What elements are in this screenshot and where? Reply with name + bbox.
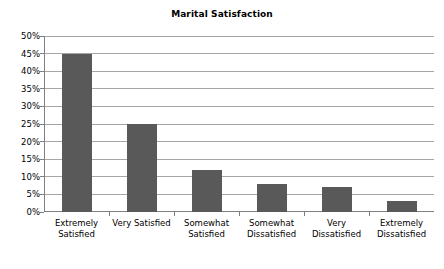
y-axis-tick-label: 50%	[0, 32, 40, 41]
x-axis-category-line: Very Satisfied	[109, 218, 174, 229]
bar-chart: Marital Satisfaction 0%5%10%15%20%25%30%…	[0, 0, 444, 269]
x-axis-category-line: Dissatisfied	[304, 229, 369, 240]
x-axis-tick-mark	[174, 212, 175, 216]
x-axis-category-label: ExtremelyDissatisfied	[369, 218, 434, 240]
x-axis-category-label: VeryDissatisfied	[304, 218, 369, 240]
x-axis-category-line: Dissatisfied	[239, 229, 304, 240]
x-axis-category-line: Somewhat	[239, 218, 304, 229]
y-axis-tick-label: 0%	[0, 208, 40, 217]
x-axis-category-line: Satisfied	[44, 229, 109, 240]
x-axis-tick-mark	[369, 212, 370, 216]
x-axis-category-line: Somewhat	[174, 218, 239, 229]
x-axis-category-line: Extremely	[44, 218, 109, 229]
x-axis-category-line: Very	[304, 218, 369, 229]
x-axis-category-label: SomewhatSatisfied	[174, 218, 239, 240]
y-axis-tick-label: 20%	[0, 137, 40, 146]
y-axis-tick-label: 35%	[0, 85, 40, 94]
x-axis-category-label: Very Satisfied	[109, 218, 174, 229]
plot-area	[44, 36, 434, 212]
x-axis-category-label: SomewhatDissatisfied	[239, 218, 304, 240]
x-axis-tick-marks	[44, 212, 434, 216]
gridline	[45, 176, 434, 177]
x-axis-category-line: Dissatisfied	[369, 229, 434, 240]
x-axis-tick-mark	[239, 212, 240, 216]
x-axis-category-line: Satisfied	[174, 229, 239, 240]
gridline	[45, 71, 434, 72]
gridline	[45, 53, 434, 54]
y-axis-tick-labels: 0%5%10%15%20%25%30%35%40%45%50%	[0, 36, 40, 212]
x-axis-tick-mark	[304, 212, 305, 216]
gridline	[45, 124, 434, 125]
y-axis-tick-label: 25%	[0, 120, 40, 129]
gridline	[45, 88, 434, 89]
y-axis-tick-label: 45%	[0, 49, 40, 58]
x-axis-category-line: Extremely	[369, 218, 434, 229]
gridline	[45, 141, 434, 142]
x-axis-tick-mark	[109, 212, 110, 216]
gridline	[45, 36, 434, 37]
y-axis-tick-label: 10%	[0, 173, 40, 182]
y-axis-tick-label: 5%	[0, 190, 40, 199]
x-axis-category-labels: ExtremelySatisfiedVery SatisfiedSomewhat…	[44, 218, 434, 262]
gridline	[45, 159, 434, 160]
x-axis-category-label: ExtremelySatisfied	[44, 218, 109, 240]
chart-title: Marital Satisfaction	[0, 9, 444, 19]
y-axis-tick-label: 15%	[0, 155, 40, 164]
gridline	[45, 194, 434, 195]
y-axis-tick-label: 30%	[0, 102, 40, 111]
y-axis-tick-label: 40%	[0, 67, 40, 76]
gridline	[45, 106, 434, 107]
